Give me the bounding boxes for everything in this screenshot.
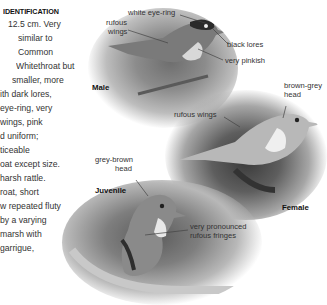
text-line: similar to [18, 32, 53, 43]
annotation-white-eye-ring: white eye-ring [128, 8, 175, 17]
text-line: Whitethroat but [16, 60, 74, 71]
text-line: d uniform; [0, 130, 38, 141]
text-line: oat except size. [0, 158, 60, 169]
text-line: roat, short [0, 186, 39, 197]
text-line: harsh rattle. [0, 172, 46, 183]
text-line: eye-ring, very [0, 102, 52, 113]
text-line: marsh with [0, 228, 42, 239]
text-line: garrigue, [0, 242, 34, 253]
female-caption: Female [282, 203, 309, 212]
annotation-very-pinkish: very pinkish [225, 56, 265, 65]
annotation-brown-grey-head: brown-grey [284, 81, 322, 90]
annotation-rufous-wings: wings [108, 27, 127, 36]
annotation-black-lores: black lores [227, 40, 263, 49]
annotation-grey-brown-head: grey-brown [95, 155, 133, 164]
annotation-rufous-wings: rufous wings [174, 110, 217, 119]
section-heading: IDENTIFICATION [3, 7, 59, 16]
juvenile-bird-icon [62, 180, 262, 305]
annotation-brown-grey-head: head [284, 90, 301, 99]
text-line: wings, pink [0, 116, 43, 127]
text-line: by a varying [0, 214, 47, 225]
text-line: ticeable [0, 144, 30, 155]
annotation-rufous-fringes: rufous fringes [190, 231, 236, 240]
male-caption: Male [92, 83, 109, 92]
text-line: w repeated fluty [0, 200, 61, 211]
juvenile-caption: Juvenile [95, 186, 126, 195]
text-line: smaller, more [12, 74, 64, 85]
text-line: 12.5 cm. Very [8, 18, 61, 29]
text-line: ith dark lores, [0, 88, 52, 99]
annotation-grey-brown-head: head [115, 164, 132, 173]
annotation-rufous-fringes: very pronounced [190, 222, 247, 231]
text-line: Common [18, 46, 53, 57]
juvenile-bird-illustration [62, 180, 262, 305]
annotation-rufous-wings: rufous [106, 18, 127, 27]
